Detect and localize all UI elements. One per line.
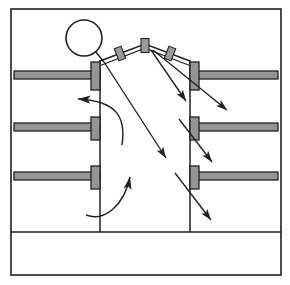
right-shelf-3-beam xyxy=(190,172,278,180)
right-shelf-2-cap xyxy=(190,117,199,140)
right-shelf-2-beam xyxy=(190,123,278,131)
diagram-container xyxy=(0,0,290,285)
right-shelf-3-cap xyxy=(190,166,199,189)
left-shelf-2-beam xyxy=(14,123,100,131)
roof-clamp-center xyxy=(141,39,149,53)
left-shelf-3-beam xyxy=(14,172,100,180)
damper-wheel xyxy=(66,20,102,56)
left-shelf-2-cap xyxy=(91,117,100,140)
right-shelf-1-beam xyxy=(190,71,278,79)
left-shelf-1-cap xyxy=(91,62,100,90)
left-shelf-3-cap xyxy=(91,166,100,189)
kiln-cross-section-diagram xyxy=(0,0,290,285)
left-shelf-1-beam xyxy=(14,71,100,79)
